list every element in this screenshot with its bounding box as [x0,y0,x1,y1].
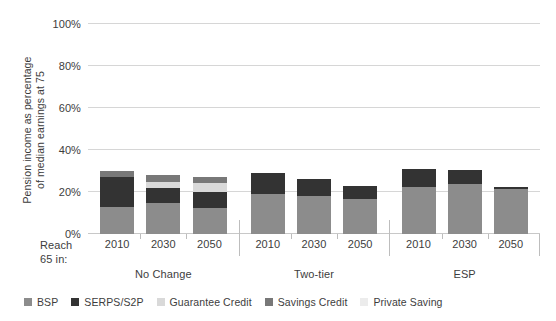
bar-segment-serps-s2p [343,186,377,200]
bar-no-change-2050 [193,177,227,234]
row-header-line-2: 65 in: [40,252,86,266]
bar-esp-2030 [448,170,482,234]
bar-segment-serps-s2p [100,177,134,206]
legend-item-bsp[interactable]: BSP [24,296,58,308]
y-tick-label-100: 100% [52,18,81,30]
plot-area: 0%20%40%60%80%100% [88,24,540,234]
x-group-separator-2 [389,234,390,256]
legend-label: Guarantee Credit [170,296,252,308]
x-tick-label-no-change-2030: 2030 [151,238,176,250]
bar-segment-bsp [297,196,331,234]
legend-item-private-saving[interactable]: Private Saving [360,296,442,308]
bar-segment-serps-s2p [448,170,482,184]
bar-segment-guarantee-credit [193,183,227,192]
x-tick-label-no-change-2050: 2050 [197,238,222,250]
legend: BSPSERPS/S2PGuarantee CreditSavings Cred… [24,296,443,308]
y-tick-label-40: 40% [59,144,81,156]
x-group-separator-1 [239,234,240,256]
bar-segment-serps-s2p [251,173,285,194]
x-tick-label-two-tier-2050: 2050 [348,238,373,250]
bar-segment-serps-s2p [146,188,180,203]
y-tick-label-60: 60% [59,102,81,114]
x-tick-label-esp-2030: 2030 [452,238,477,250]
bar-segment-guarantee-credit [146,182,180,188]
bar-segment-bsp [100,207,134,234]
group-separator-2 [389,220,390,234]
legend-swatch-icon [24,298,32,306]
bar-two-tier-2010 [251,173,285,234]
bar-segment-bsp [494,189,528,234]
bar-segment-savings-credit [100,171,134,177]
x-group-label-esp: ESP [454,268,476,280]
legend-item-guarantee-credit[interactable]: Guarantee Credit [157,296,252,308]
x-tick-mark [186,234,187,239]
legend-swatch-icon [71,298,79,306]
bar-segment-bsp [193,208,227,234]
bar-no-change-2010 [100,171,134,234]
legend-swatch-icon [265,298,273,306]
legend-label: BSP [37,296,58,308]
bar-no-change-2030 [146,175,180,234]
y-axis-title-line-2: of median earnings at 75 [34,71,47,189]
y-tick-label-80: 80% [59,60,81,72]
bar-two-tier-2030 [297,179,331,234]
y-axis-title: Pension income as percentage of median e… [14,24,54,236]
legend-swatch-icon [360,298,368,306]
bar-esp-2010 [402,169,436,234]
legend-item-savings-credit[interactable]: Savings Credit [265,296,348,308]
x-group-label-no-change: No Change [135,268,192,280]
bar-esp-2050 [494,187,528,234]
x-tick-mark [442,234,443,239]
bar-two-tier-2050 [343,186,377,234]
group-separator-1 [239,220,240,234]
legend-swatch-icon [157,298,165,306]
x-group-label-two-tier: Two-tier [294,268,334,280]
row-header-line-1: Reach [40,238,86,252]
y-tick-label-20: 20% [59,186,81,198]
legend-label: SERPS/S2P [84,296,143,308]
x-tick-label-two-tier-2030: 2030 [302,238,327,250]
bar-segment-serps-s2p [193,192,227,208]
x-axis-right-edge [539,234,540,256]
x-tick-mark [488,234,489,239]
bar-segment-bsp [402,187,436,234]
row-header-reach-65-in: Reach 65 in: [40,238,86,266]
bar-segment-serps-s2p [494,187,528,189]
bar-segment-bsp [146,203,180,235]
bar-segment-savings-credit [146,175,180,181]
x-axis: 201020302050201020302050201020302050No C… [88,234,540,294]
x-tick-label-no-change-2010: 2010 [105,238,130,250]
x-tick-label-esp-2010: 2010 [406,238,431,250]
chart-container: Pension income as percentage of median e… [0,0,556,321]
legend-item-serps-s2p[interactable]: SERPS/S2P [71,296,143,308]
x-tick-label-two-tier-2010: 2010 [255,238,280,250]
x-tick-mark [337,234,338,239]
bar-segment-serps-s2p [402,169,436,187]
y-axis-title-line-1: Pension income as percentage [21,57,34,204]
bar-segment-bsp [343,199,377,234]
bars-layer [88,24,540,234]
bar-segment-bsp [251,194,285,234]
bar-segment-serps-s2p [297,179,331,196]
bar-segment-bsp [448,184,482,234]
legend-label: Private Saving [373,296,442,308]
x-tick-label-esp-2050: 2050 [498,238,523,250]
x-tick-mark [140,234,141,239]
bar-segment-savings-credit [193,177,227,182]
legend-label: Savings Credit [278,296,348,308]
x-tick-mark [291,234,292,239]
